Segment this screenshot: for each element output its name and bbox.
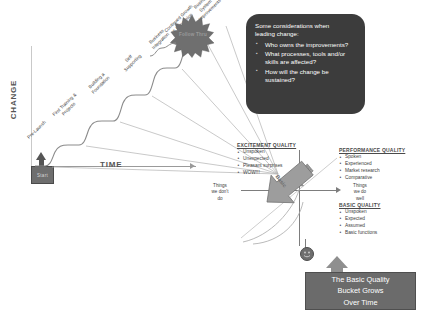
consideration-item: How will the change be sustained? bbox=[255, 68, 357, 85]
excitement-quality-item: Unexpected bbox=[237, 156, 296, 163]
performance-quality-item: Comparative bbox=[339, 175, 405, 182]
performance-quality-heading: PERFORMANCE QUALITY bbox=[339, 147, 405, 153]
considerations-intro: Some considerations when leading change: bbox=[255, 22, 357, 39]
bucket-up-arrow-icon bbox=[326, 256, 348, 268]
basic-quality-item: Unspoken bbox=[339, 209, 381, 216]
quadrant-label-right: Things we do well bbox=[343, 183, 377, 202]
performance-quality-item: Market research bbox=[339, 168, 405, 175]
consideration-item: What processes, tools and/or skills are … bbox=[255, 50, 357, 67]
bucket-caption-box: The Basic Quality Bucket Grows Over Time bbox=[305, 272, 416, 310]
starburst-label: Follow Thru bbox=[176, 32, 210, 37]
excitement-quality-item: Pleasant surprises bbox=[237, 163, 296, 170]
star-connector-line bbox=[150, 40, 180, 62]
performance-quality-block: PERFORMANCE QUALITY Spoken Experienced M… bbox=[339, 147, 405, 182]
excitement-quality-block: EXCITEMENT QUALITY Unspoken Unexpected P… bbox=[237, 142, 296, 177]
smiley-face-icon bbox=[300, 247, 314, 261]
excitement-quality-item: Unspoken bbox=[237, 149, 296, 156]
performance-quality-item: Spoken bbox=[339, 154, 405, 161]
basic-quality-item: Basic functions bbox=[339, 230, 381, 237]
basic-quality-item: Assumed bbox=[339, 223, 381, 230]
considerations-callout: Some considerations when leading change:… bbox=[246, 14, 365, 114]
basic-quality-block: BASIC QUALITY Unspoken Expected Assumed … bbox=[339, 202, 381, 237]
excitement-quality-item: WOW!!! bbox=[237, 170, 296, 177]
diagram-canvas: CHANGE TIME Start Pre-Launch First Train… bbox=[0, 0, 421, 316]
considerations-list: Who owns the improvements? What processe… bbox=[255, 41, 357, 85]
performance-quality-list: Spoken Experienced Market research Compa… bbox=[339, 154, 405, 182]
consideration-item: Who owns the improvements? bbox=[255, 41, 357, 49]
excitement-quality-heading: EXCITEMENT QUALITY bbox=[237, 142, 296, 148]
basic-quality-list: Unspoken Expected Assumed Basic function… bbox=[339, 209, 381, 237]
basic-quality-heading: BASIC QUALITY bbox=[339, 202, 381, 208]
quadrant-label-left: Things we don't do bbox=[200, 183, 240, 202]
performance-quality-item: Experienced bbox=[339, 161, 405, 168]
excitement-quality-list: Unspoken Unexpected Pleasant surprises W… bbox=[237, 149, 296, 177]
basic-quality-item: Expected bbox=[339, 216, 381, 223]
y-axis-label: CHANGE bbox=[9, 74, 18, 126]
